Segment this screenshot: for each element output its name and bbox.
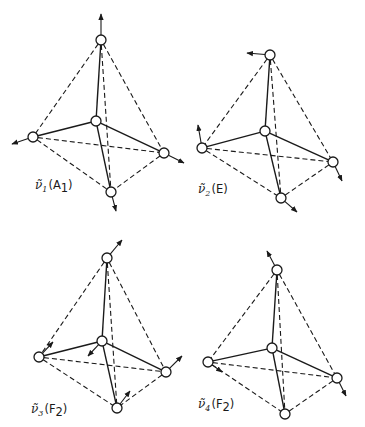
- edge-top-right: [279, 274, 334, 373]
- symmetry-species: E: [216, 182, 223, 196]
- symmetry-species-subscript: 2: [223, 400, 230, 414]
- edge-left-right: [213, 363, 332, 378]
- bond-center-right: [106, 343, 161, 370]
- displacement-arrow-icon: [88, 345, 99, 356]
- edge-top-left: [36, 44, 98, 133]
- bond-center-top: [102, 263, 106, 336]
- bond-center-right: [101, 123, 160, 151]
- panel-nu1-a1-mode: ν̃1(A1): [12, 14, 184, 211]
- atom-top-icon: [272, 265, 282, 275]
- edge-right-bottom: [289, 381, 333, 411]
- displacement-arrow-icon: [267, 251, 275, 266]
- edge-top-right: [103, 44, 161, 148]
- bond-center-right: [270, 133, 329, 160]
- atom-top-icon: [102, 253, 112, 263]
- atom-bottom-icon: [276, 193, 286, 203]
- edge-left-right: [207, 149, 328, 162]
- displacement-arrow-icon: [198, 125, 201, 143]
- edge-top-right: [273, 59, 331, 157]
- mode-index: 4: [204, 404, 210, 413]
- displacement-arrow-icon: [339, 382, 346, 396]
- edge-left-right: [44, 358, 161, 372]
- mode-label: ν̃1(A1): [35, 178, 73, 195]
- atom-right-icon: [328, 157, 338, 167]
- bond-center-bottom: [103, 346, 116, 403]
- mode-label: ν̃3(F2): [31, 402, 67, 419]
- edge-top-left: [205, 59, 267, 144]
- mode-index: 3: [38, 409, 43, 418]
- edge-top-bottom: [107, 263, 116, 403]
- edge-right-bottom: [285, 165, 329, 195]
- atom-top-icon: [96, 35, 106, 45]
- species-close-paren: ): [230, 397, 235, 411]
- displacement-arrow-icon: [110, 240, 122, 254]
- bond-center-top: [96, 45, 100, 116]
- displacement-arrow-icon: [168, 155, 184, 163]
- species-close-paren: ): [223, 182, 228, 196]
- bond-center-bottom: [97, 126, 110, 187]
- mode-label: ν̃4(F2): [198, 397, 234, 414]
- bond-center-left: [38, 122, 91, 136]
- species-close-paren: ): [68, 178, 73, 192]
- atom-left-icon: [197, 143, 207, 153]
- bond-center-left: [207, 132, 260, 146]
- species-close-paren: ): [63, 402, 68, 416]
- displacement-arrow-icon: [335, 167, 342, 181]
- displacement-arrow-icon: [212, 365, 222, 372]
- edge-top-right: [109, 262, 163, 367]
- panel-nu4-f2-mode: ν̃4(F2): [198, 251, 346, 419]
- atom-bottom-icon: [112, 403, 122, 413]
- edge-left-right: [38, 138, 159, 153]
- atom-bottom-icon: [106, 187, 116, 197]
- atom-left-icon: [28, 132, 38, 142]
- edge-top-left: [211, 274, 274, 358]
- bond-center-left: [213, 349, 267, 361]
- symmetry-species-subscript: 2: [56, 405, 63, 419]
- mode-symbol: ν̃: [198, 397, 205, 411]
- displacement-arrow-icon: [170, 356, 182, 368]
- bond-center-bottom: [273, 353, 284, 409]
- edge-top-left: [42, 262, 104, 353]
- bond-center-top: [272, 275, 276, 343]
- atom-left-icon: [203, 357, 213, 367]
- bond-center-top: [265, 60, 269, 126]
- edge-top-bottom: [277, 275, 284, 409]
- symmetry-species: F: [216, 397, 223, 411]
- atom-center-icon: [267, 343, 277, 353]
- edge-right-bottom: [121, 375, 162, 405]
- mode-symbol: ν̃: [35, 178, 42, 192]
- displacement-arrow-icon: [120, 391, 130, 404]
- atom-center-icon: [97, 336, 107, 346]
- displacement-arrow-icon: [112, 197, 116, 211]
- panel-nu3-f2-mode: ν̃3(F2): [31, 240, 182, 419]
- symmetry-species-subscript: 1: [61, 181, 68, 195]
- atom-right-icon: [159, 148, 169, 158]
- atom-bottom-icon: [280, 409, 290, 419]
- edge-right-bottom: [115, 156, 160, 189]
- bond-center-left: [44, 342, 97, 356]
- atom-left-icon: [34, 352, 44, 362]
- bond-center-bottom: [266, 136, 280, 193]
- symmetry-species: A: [53, 178, 61, 192]
- mode-index: 1: [42, 185, 47, 194]
- mode-label: ν̃2(E): [198, 182, 228, 198]
- atom-center-icon: [260, 126, 270, 136]
- displacement-arrow-icon: [247, 53, 265, 55]
- atom-right-icon: [161, 367, 171, 377]
- atom-right-icon: [332, 373, 342, 383]
- tetrahedral-vibration-modes-diagram: ν̃1(A1) ν̃2(E) ν̃3(F2) ν̃4(F2): [0, 0, 365, 427]
- panel-nu2-e-mode: ν̃2(E): [197, 50, 342, 212]
- displacement-arrow-icon: [285, 201, 297, 212]
- mode-index: 2: [204, 189, 210, 198]
- symmetry-species: F: [49, 402, 56, 416]
- atom-top-icon: [265, 50, 275, 60]
- mode-symbol: ν̃: [31, 402, 38, 416]
- edge-left-bottom: [43, 360, 113, 406]
- atom-center-icon: [91, 116, 101, 126]
- mode-symbol: ν̃: [198, 182, 205, 196]
- displacement-arrow-icon: [12, 139, 28, 144]
